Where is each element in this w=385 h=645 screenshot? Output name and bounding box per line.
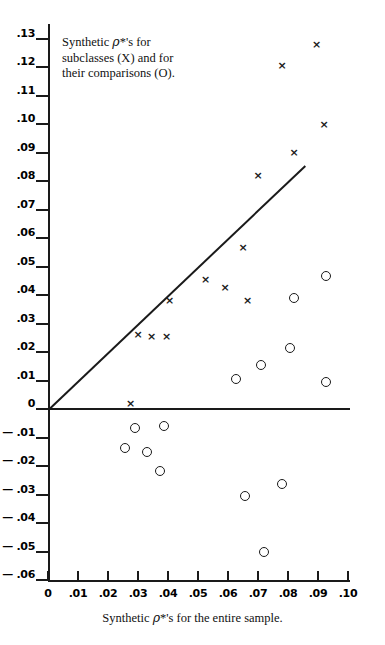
y-tick-mark bbox=[36, 152, 48, 154]
x-tick-label: 0 bbox=[33, 588, 63, 599]
data-point-subclass-x: × bbox=[146, 331, 157, 342]
data-point-subclass-x: × bbox=[319, 119, 330, 130]
x-tick-label: .03 bbox=[123, 588, 153, 599]
x-tick-mark bbox=[167, 571, 169, 580]
legend-line1-suffix: *'s for bbox=[120, 35, 151, 49]
x-axis-line bbox=[48, 580, 350, 582]
data-point-comparison-o bbox=[259, 547, 269, 557]
data-point-comparison-o bbox=[277, 479, 287, 489]
data-point-subclass-x: × bbox=[289, 147, 300, 158]
y-tick-mark bbox=[36, 95, 48, 97]
y-tick-mark bbox=[36, 209, 48, 211]
x-tick-mark bbox=[287, 571, 289, 580]
y-tick-label: — .02 bbox=[0, 455, 35, 466]
x-tick-mark bbox=[47, 571, 49, 580]
legend-note: Synthetic ρ*'s for subclasses (X) and fo… bbox=[62, 34, 212, 82]
data-point-subclass-x: × bbox=[161, 331, 172, 342]
data-point-comparison-o bbox=[240, 491, 250, 501]
caption-suffix: *'s for the entire sample. bbox=[160, 611, 283, 625]
y-tick-mark bbox=[36, 408, 48, 410]
x-tick-mark bbox=[317, 571, 319, 580]
data-point-subclass-x: × bbox=[133, 329, 144, 340]
y-tick-mark bbox=[36, 237, 48, 239]
y-tick-mark bbox=[36, 494, 48, 496]
y-tick-label: .01 bbox=[0, 370, 35, 381]
caption-prefix: Synthetic bbox=[102, 611, 152, 625]
y-tick-label: .12 bbox=[0, 56, 35, 67]
data-point-comparison-o bbox=[285, 343, 295, 353]
data-point-subclass-x: × bbox=[164, 295, 175, 306]
y-tick-label: .09 bbox=[0, 142, 35, 153]
y-tick-label: .08 bbox=[0, 170, 35, 181]
y-tick-mark bbox=[36, 38, 48, 40]
x-tick-mark bbox=[257, 571, 259, 580]
figure-caption: Synthetic ρ*'s for the entire sample. bbox=[0, 610, 385, 626]
data-point-comparison-o bbox=[120, 443, 130, 453]
y-tick-label: 0 bbox=[0, 398, 35, 409]
x-tick-mark bbox=[197, 571, 199, 580]
y-tick-label: .02 bbox=[0, 341, 35, 352]
y-tick-mark bbox=[36, 123, 48, 125]
x-tick-label: .07 bbox=[243, 588, 273, 599]
x-tick-label: .08 bbox=[273, 588, 303, 599]
y-tick-label: .06 bbox=[0, 227, 35, 238]
y-tick-mark bbox=[36, 180, 48, 182]
x-tick-label: .04 bbox=[153, 588, 183, 599]
data-point-comparison-o bbox=[321, 377, 331, 387]
x-tick-label: .05 bbox=[183, 588, 213, 599]
rho-symbol: ρ bbox=[112, 34, 119, 49]
y-tick-label: .11 bbox=[0, 85, 35, 96]
y-tick-mark bbox=[36, 66, 48, 68]
y-tick-label: .07 bbox=[0, 199, 35, 210]
y-tick-label: — .04 bbox=[0, 512, 35, 523]
data-point-comparison-o bbox=[289, 293, 299, 303]
y-tick-label: .03 bbox=[0, 313, 35, 324]
identity-reference-line bbox=[48, 165, 306, 410]
y-tick-mark bbox=[36, 465, 48, 467]
y-zero-baseline bbox=[48, 408, 350, 410]
data-point-comparison-o bbox=[130, 423, 140, 433]
legend-note-line-3: their comparisons (O). bbox=[62, 66, 212, 82]
x-tick-mark bbox=[107, 571, 109, 580]
y-tick-mark bbox=[36, 294, 48, 296]
legend-note-line-1: Synthetic ρ*'s for bbox=[62, 34, 212, 51]
y-tick-mark bbox=[36, 351, 48, 353]
data-point-subclass-x: × bbox=[311, 39, 322, 50]
caption-rho-symbol: ρ bbox=[153, 610, 160, 625]
y-tick-mark bbox=[36, 522, 48, 524]
x-tick-label: .10 bbox=[333, 588, 363, 599]
data-point-subclass-x: × bbox=[277, 60, 288, 71]
y-tick-label: .13 bbox=[0, 28, 35, 39]
legend-note-line-2: subclasses (X) and for bbox=[62, 51, 212, 67]
x-tick-mark bbox=[347, 571, 349, 580]
data-point-comparison-o bbox=[321, 271, 331, 281]
x-tick-label: .09 bbox=[303, 588, 333, 599]
scatter-plot-figure: Synthetic ρ*'s for subclasses (X) and fo… bbox=[0, 0, 385, 645]
y-tick-label: .04 bbox=[0, 284, 35, 295]
data-point-comparison-o bbox=[256, 360, 266, 370]
data-point-subclass-x: × bbox=[238, 242, 249, 253]
y-tick-mark bbox=[36, 551, 48, 553]
y-tick-mark bbox=[36, 266, 48, 268]
y-tick-mark bbox=[36, 380, 48, 382]
x-tick-label: .01 bbox=[63, 588, 93, 599]
x-tick-label: .02 bbox=[93, 588, 123, 599]
legend-line1-prefix: Synthetic bbox=[62, 35, 112, 49]
x-tick-mark bbox=[77, 571, 79, 580]
y-tick-label: .05 bbox=[0, 256, 35, 267]
data-point-subclass-x: × bbox=[220, 282, 231, 293]
x-tick-mark bbox=[137, 571, 139, 580]
y-tick-mark bbox=[36, 323, 48, 325]
x-tick-label: .06 bbox=[213, 588, 243, 599]
y-tick-label: — .05 bbox=[0, 541, 35, 552]
data-point-comparison-o bbox=[142, 447, 152, 457]
y-tick-label: — .06 bbox=[0, 569, 35, 580]
y-tick-label: .10 bbox=[0, 113, 35, 124]
data-point-comparison-o bbox=[231, 374, 241, 384]
y-tick-label: — .01 bbox=[0, 427, 35, 438]
data-point-subclass-x: × bbox=[253, 170, 264, 181]
data-point-comparison-o bbox=[155, 466, 165, 476]
y-tick-label: — .03 bbox=[0, 484, 35, 495]
y-axis-line bbox=[48, 24, 50, 582]
data-point-subclass-x: × bbox=[242, 295, 253, 306]
